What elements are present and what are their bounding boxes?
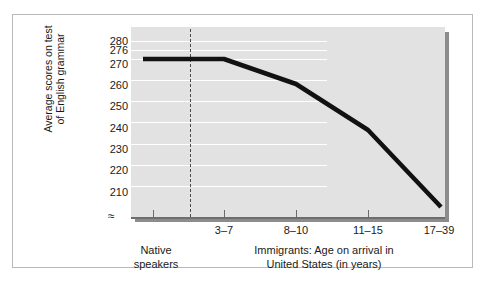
x-tick-3-7: [224, 210, 225, 218]
y-axis-tick-labels: 280 276 270 260 250 240 230 220 210: [73, 15, 128, 225]
immigrants-caption: Immigrants: Age on arrival in United Sta…: [203, 243, 445, 271]
x-axis-line: [131, 217, 445, 219]
y-tick-label-220: 220: [88, 165, 128, 176]
x-tick-label-3-7: 3–7: [194, 224, 254, 236]
x-tick-label-8-10: 8–10: [266, 224, 326, 236]
native-speakers-caption: Native speakers: [121, 243, 191, 271]
data-series-line: [131, 27, 449, 219]
y-tick-label-270: 270: [88, 59, 128, 70]
x-tick-native: [153, 210, 154, 218]
x-tick-8-10: [296, 210, 297, 218]
immigrants-caption-line1: Immigrants: Age on arrival in: [254, 244, 393, 256]
figure-frame: 280 276 270 260 250 240 230 220 210 ≈ Av…: [12, 14, 473, 268]
y-tick-label-250: 250: [88, 101, 128, 112]
x-tick-label-11-15: 11–15: [338, 224, 398, 236]
x-tick-11-15: [368, 210, 369, 218]
y-tick-label-210: 210: [88, 187, 128, 198]
y-tick-label-276: 276: [88, 45, 128, 56]
x-tick-label-17-39: 17–39: [409, 224, 469, 236]
y-tick-label-260: 260: [88, 80, 128, 91]
y-tick-label-230: 230: [88, 144, 128, 155]
data-polyline: [143, 59, 441, 207]
immigrants-caption-line2: United States (in years): [267, 258, 382, 270]
y-axis-break-symbol: ≈: [108, 209, 115, 223]
y-axis-title-line1: Average scores on test: [42, 25, 54, 132]
y-tick-label-240: 240: [88, 123, 128, 134]
native-caption-line2: speakers: [134, 258, 179, 270]
y-axis-title: Average scores on test of English gramma…: [42, 5, 66, 153]
y-axis-title-line2: of English grammar: [54, 33, 66, 124]
native-caption-line1: Native: [140, 244, 171, 256]
